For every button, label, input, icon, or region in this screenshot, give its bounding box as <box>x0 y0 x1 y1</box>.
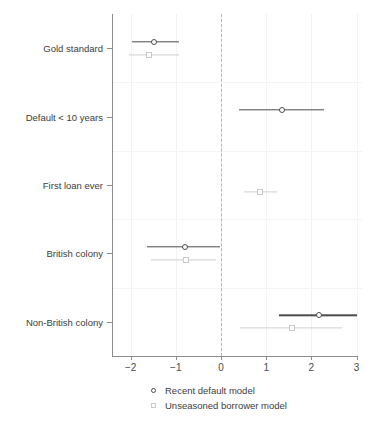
x-tick-mark <box>357 356 358 360</box>
x-tick-label: 2 <box>309 362 315 373</box>
y-axis-category-label: Gold standard <box>0 43 103 54</box>
estimate-point-marker <box>182 244 188 250</box>
square-marker-icon <box>146 403 160 408</box>
gridline-v-3 <box>266 14 267 356</box>
x-tick-label: 0 <box>218 362 224 373</box>
estimate-point-marker <box>279 107 285 113</box>
x-tick-mark <box>221 356 222 360</box>
estimate-point-marker <box>257 189 263 195</box>
y-axis-category-label: Default < 10 years <box>0 111 103 122</box>
x-tick-mark <box>311 356 312 360</box>
confidence-interval-bar <box>129 54 179 55</box>
y-axis-category-label: Non-British colony <box>0 316 103 327</box>
y-tick-mark <box>107 253 112 254</box>
x-tick-mark <box>176 356 177 360</box>
x-tick-label: −2 <box>125 362 136 373</box>
legend-label: Recent default model <box>160 385 255 396</box>
coefficient-plot: −2−10123 Gold standardDefault < 10 years… <box>0 0 380 428</box>
gridline-h-4 <box>112 288 362 289</box>
estimate-point-marker <box>151 39 157 45</box>
x-tick-label: −1 <box>170 362 181 373</box>
legend-item-unseasoned-borrower-model[interactable]: Unseasoned borrower model <box>146 398 287 413</box>
gridline-v-1 <box>176 14 177 356</box>
legend-item-recent-default-model[interactable]: Recent default model <box>146 383 287 398</box>
estimate-point-marker <box>146 52 152 58</box>
x-tick-label: 1 <box>263 362 269 373</box>
x-tick-mark <box>266 356 267 360</box>
legend: Recent default model Unseasoned borrower… <box>146 383 287 413</box>
circle-marker-icon <box>146 388 160 393</box>
y-tick-mark <box>107 117 112 118</box>
gridline-v-0 <box>131 14 132 356</box>
x-tick-label: 3 <box>354 362 360 373</box>
gridline-v-5 <box>357 14 358 356</box>
gridline-h-1 <box>112 82 362 83</box>
legend-label: Unseasoned borrower model <box>160 400 287 411</box>
estimate-point-marker <box>183 257 189 263</box>
estimate-point-marker <box>289 325 295 331</box>
x-axis-line <box>112 356 357 357</box>
y-axis-category-label: First loan ever <box>0 180 103 191</box>
gridline-h-2 <box>112 151 362 152</box>
zero-line <box>221 14 222 356</box>
y-tick-mark <box>107 48 112 49</box>
x-tick-mark <box>131 356 132 360</box>
gridline-h-3 <box>112 219 362 220</box>
gridline-v-4 <box>311 14 312 356</box>
y-axis-category-label: British colony <box>0 248 103 259</box>
y-tick-mark <box>107 185 112 186</box>
plot-panel <box>112 14 362 356</box>
y-tick-mark <box>107 322 112 323</box>
estimate-point-marker <box>316 312 322 318</box>
y-axis-line <box>112 14 113 356</box>
